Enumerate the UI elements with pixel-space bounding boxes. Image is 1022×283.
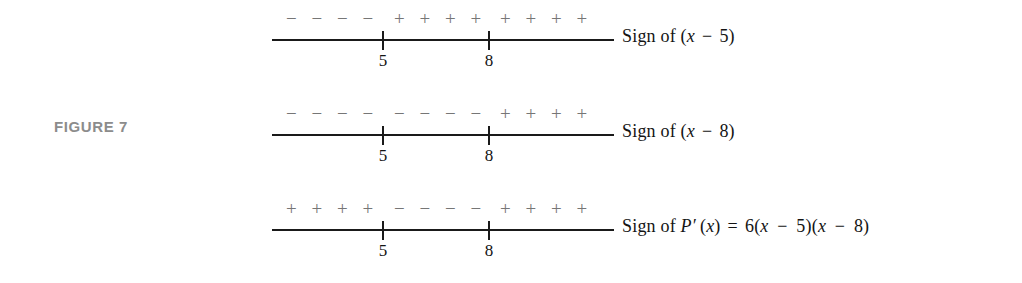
row-label-function: P′: [681, 216, 696, 236]
tick-mark-8: [488, 126, 490, 145]
sign-segment-right: + + + +: [500, 6, 592, 32]
row-label-sign-of-x-minus-5: Sign of (x−5): [622, 26, 735, 47]
sign-chart: − − − − + + + + + + + + 5 8 Sign of (x−5…: [0, 0, 1022, 283]
row-label-prefix: Sign of (: [622, 26, 687, 46]
sign-segment-right: + + + +: [500, 101, 592, 127]
tick-label-8: 8: [474, 241, 504, 261]
row-label-equals: =: [728, 216, 738, 236]
tick-mark-5: [382, 126, 384, 145]
tick-label-5: 5: [368, 146, 398, 166]
sign-chart-row: − − − − − − − − + + + + 5 8 Sign of (x−8…: [0, 101, 1022, 171]
sign-chart-row: + + + + − − − − + + + + 5 8 Sign of P′(x…: [0, 196, 1022, 266]
tick-mark-5: [382, 221, 384, 240]
sign-segment-left: − − − −: [286, 6, 378, 32]
tick-mark-5: [382, 31, 384, 50]
row-label-operator: −: [702, 121, 712, 141]
row-label-prefix: Sign of (: [622, 121, 687, 141]
sign-segment-left: − − − −: [286, 101, 378, 127]
row-label-variable: x: [687, 121, 695, 141]
sign-segment-right: + + + +: [500, 196, 592, 222]
tick-label-5: 5: [368, 51, 398, 71]
sign-chart-row: − − − − + + + + + + + + 5 8 Sign of (x−5…: [0, 6, 1022, 76]
row-label-constant: 8: [719, 121, 728, 141]
row-label-variable: x: [687, 26, 695, 46]
row-label-arg-close: ): [714, 216, 720, 236]
sign-segment-middle: − − − −: [394, 196, 486, 222]
row-label-suffix: ): [729, 26, 735, 46]
row-label-constant: 5: [719, 26, 728, 46]
row-label-factor-2: (x − 8): [812, 216, 870, 236]
sign-segment-middle: − − − −: [394, 101, 486, 127]
number-line: [272, 134, 614, 136]
number-line: [272, 39, 614, 41]
row-label-prefix: Sign of: [622, 216, 681, 236]
number-line: [272, 229, 614, 231]
row-label-sign-of-p-prime-x: Sign of P′(x)=6(x − 5)(x − 8): [622, 216, 869, 237]
sign-segment-middle: + + + +: [394, 6, 486, 32]
row-label-suffix: ): [729, 121, 735, 141]
tick-mark-8: [488, 221, 490, 240]
tick-label-5: 5: [368, 241, 398, 261]
tick-label-8: 8: [474, 51, 504, 71]
row-label-factor-1: (x − 5): [754, 216, 812, 236]
row-label-operator: −: [702, 26, 712, 46]
tick-label-8: 8: [474, 146, 504, 166]
sign-segment-left: + + + +: [286, 196, 378, 222]
row-label-sign-of-x-minus-8: Sign of (x−8): [622, 121, 735, 142]
row-label-coefficient: 6: [745, 216, 754, 236]
tick-mark-8: [488, 31, 490, 50]
